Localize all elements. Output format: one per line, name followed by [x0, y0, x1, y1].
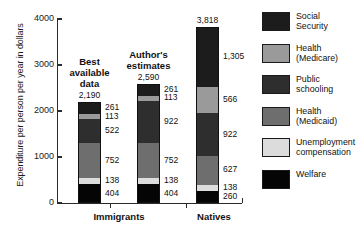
legend-label: Health (Medicare): [296, 43, 338, 63]
y-axis-tick-label: 1000: [14, 151, 54, 161]
y-axis-tick-label: 3000: [14, 59, 54, 69]
y-axis-tick-label: 2000: [14, 105, 54, 115]
x-axis-line: [57, 203, 242, 204]
bar-segment[interactable]: [196, 156, 219, 185]
segment-value-label: 404: [164, 188, 178, 198]
segment-value-label: 260: [223, 191, 237, 201]
x-axis-group-tick: [110, 203, 111, 208]
segment-value-label: 1,305: [223, 51, 244, 61]
bar-segment[interactable]: [78, 143, 101, 178]
bar-segment[interactable]: [196, 27, 219, 87]
y-axis-tick: [57, 18, 62, 19]
legend-label: Public schooling: [296, 74, 333, 94]
stacked-bar-chart: Expenditure per person per year in dolla…: [0, 0, 363, 232]
x-axis-end-cap: [242, 198, 243, 203]
segment-value-label: 752: [164, 155, 178, 165]
y-axis-tick: [57, 110, 62, 111]
segment-value-label: 113: [105, 111, 119, 121]
x-axis-group-tick: [186, 203, 187, 208]
legend-swatch: [262, 44, 290, 63]
legend-swatch: [262, 170, 290, 189]
segment-value-label: 522: [105, 125, 119, 135]
y-axis-tick-label: 4000: [14, 13, 54, 23]
bar-segment[interactable]: [196, 191, 219, 203]
legend-label: Welfare: [296, 169, 326, 179]
bar-segment[interactable]: [196, 87, 219, 113]
y-axis-tick: [57, 156, 62, 157]
stacked-bar-authors-estimates[interactable]: [137, 84, 160, 203]
bar-total-label: 2,190: [67, 90, 113, 100]
bar-total-label: 2,590: [126, 72, 172, 82]
bar-title-authors-estimates: Author'sestimates: [114, 49, 184, 71]
group-label-immigrants: Immigrants: [74, 211, 164, 222]
legend-swatch: [262, 138, 290, 157]
segment-value-label: 627: [223, 164, 237, 174]
segment-value-label: 922: [164, 116, 178, 126]
group-label-natives: Natives: [169, 211, 259, 222]
bar-segment[interactable]: [78, 102, 101, 114]
stacked-bar-best-available-data[interactable]: [78, 102, 101, 203]
bar-segment[interactable]: [137, 184, 160, 203]
bar-segment[interactable]: [137, 143, 160, 178]
legend-label: Unemployment compensation: [296, 137, 355, 157]
bar-segment[interactable]: [137, 84, 160, 96]
bar-segment[interactable]: [196, 113, 219, 155]
segment-value-label: 113: [164, 92, 178, 102]
segment-value-label: 752: [105, 155, 119, 165]
legend-swatch: [262, 12, 290, 31]
segment-value-label: 404: [105, 188, 119, 198]
bar-segment[interactable]: [137, 101, 160, 143]
bar-segment[interactable]: [78, 119, 101, 143]
x-axis-end-cap: [57, 198, 58, 203]
legend-label: Social Security: [296, 11, 328, 31]
segment-value-label: 566: [223, 94, 237, 104]
segment-value-label: 138: [164, 175, 178, 185]
bar-total-label: 3,818: [185, 15, 231, 25]
stacked-bar-natives[interactable]: [196, 27, 219, 203]
legend-swatch: [262, 107, 290, 126]
legend-label: Health (Medicaid): [296, 106, 337, 126]
segment-value-label: 138: [105, 175, 119, 185]
legend-swatch: [262, 75, 290, 94]
segment-value-label: 922: [223, 129, 237, 139]
bar-segment[interactable]: [78, 184, 101, 203]
y-axis-tick-label: 0: [14, 197, 54, 207]
